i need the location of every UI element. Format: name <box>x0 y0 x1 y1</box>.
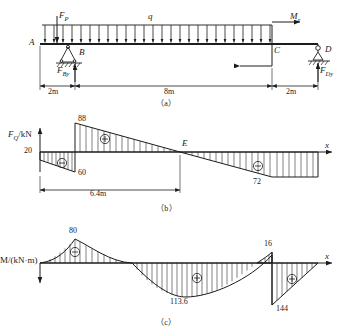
shear-value-right-end: 72 <box>253 178 261 186</box>
moment-diagram-group <box>40 239 332 305</box>
moment-axis-x-label: x <box>325 252 329 261</box>
caption-a: （a） <box>156 100 176 108</box>
top-cut-text <box>4 0 174 7</box>
distributed-load-arrows <box>45 25 270 43</box>
reaction-label-by: FBy <box>57 66 69 77</box>
load-label-fp-sub: P <box>65 15 69 22</box>
moment-value-midspan: 113.6 <box>170 298 188 306</box>
shear-axis-x-label: x <box>325 141 329 150</box>
shear-value-right-of-b: 88 <box>78 115 86 123</box>
engineering-diagram-svg <box>0 0 342 334</box>
point-label-d: D <box>325 45 332 54</box>
reaction-label-dy: FDy <box>320 66 333 77</box>
load-label-q: q <box>148 12 153 21</box>
point-label-a: A <box>29 38 35 47</box>
shear-hatch-3 <box>186 152 313 177</box>
shear-zero-location-label: 6.4m <box>90 190 106 198</box>
shear-axis-y-unit: /kN <box>18 129 32 139</box>
moment-value-at-b: 80 <box>69 227 77 235</box>
moment-label-me-sub: e <box>298 16 301 23</box>
moment-axis-y-label: M/(kN·m) <box>0 256 38 265</box>
shear-value-left-of-b: 60 <box>78 169 86 177</box>
reaction-label-by-sub: By <box>63 70 70 77</box>
point-label-b: B <box>79 48 85 57</box>
shear-axis-y-label: FQ/kN <box>8 130 32 141</box>
figure-root: A B C D FP q Me FBy FDy 2m 8m 2m （a） FQ/… <box>0 0 342 334</box>
shear-diagram-group <box>40 123 332 193</box>
dimension-label-1: 2m <box>48 88 58 96</box>
dimension-label-3: 2m <box>286 88 296 96</box>
dimension-label-2: 8m <box>164 88 174 96</box>
load-label-fp: FP <box>59 11 68 22</box>
moment-label-me-base: M <box>290 11 298 21</box>
reaction-label-dy-sub: Dy <box>326 70 334 77</box>
shear-point-e-label: E <box>182 139 188 148</box>
moment-label-me: Me <box>290 12 300 23</box>
point-label-c: C <box>274 46 280 55</box>
shear-value-at-a: 20 <box>24 147 32 155</box>
moment-value-left-of-c: 16 <box>264 240 272 248</box>
moment-value-right-of-c: 144 <box>276 305 288 313</box>
caption-b: （b） <box>156 205 177 213</box>
caption-c: （c） <box>156 319 176 327</box>
